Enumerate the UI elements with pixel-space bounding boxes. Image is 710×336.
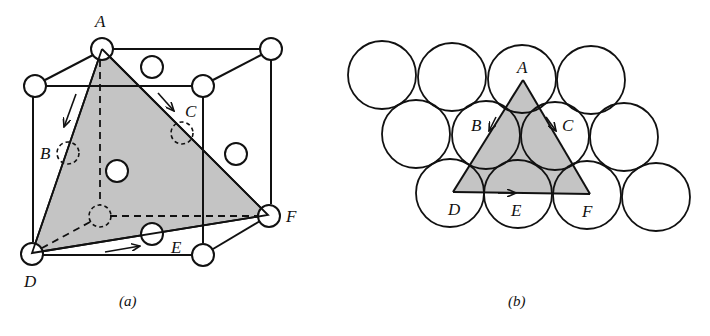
label-b-E: E [510, 201, 522, 220]
edge-bottom-right [213, 221, 260, 249]
edge-top-left [45, 55, 93, 80]
label-a-A: A [94, 12, 106, 31]
label-b-B: B [471, 116, 482, 135]
label-a-D: D [23, 272, 37, 291]
caption-a: (a) [119, 293, 137, 310]
atom-top-back-right [260, 38, 282, 60]
atom-top-front-right [192, 75, 214, 97]
sphere-r2-1 [382, 100, 450, 168]
label-b-D: D [447, 200, 461, 219]
atom-face-right [225, 143, 247, 165]
edge-top-right [213, 55, 261, 80]
arrow-to-E-icon [105, 246, 140, 252]
label-a-E: E [170, 238, 182, 257]
arrow-to-B-icon [64, 94, 76, 127]
sphere-r1-2 [418, 43, 486, 111]
label-b-A: A [516, 58, 528, 77]
sphere-r2-4 [590, 103, 658, 171]
atom-face-front [106, 160, 128, 182]
atom-D [21, 243, 43, 265]
atom-face-top [141, 56, 163, 78]
label-b-F: F [581, 202, 593, 221]
label-a-B: B [40, 144, 51, 163]
panel-a-fcc-cube: A B C D E F (a) [21, 12, 297, 310]
sphere-r3-5 [622, 163, 690, 231]
sphere-r1-1 [348, 41, 416, 109]
figure-canvas: A B C D E F (a) A B [0, 0, 710, 336]
atom-top-front-left [24, 75, 46, 97]
label-b-C: C [562, 116, 574, 135]
panel-b-close-packed-layer: A B C D E F (b) [348, 41, 690, 310]
caption-b: (b) [508, 293, 526, 310]
atom-bottom-front-right [192, 244, 214, 266]
label-a-C: C [185, 102, 197, 121]
label-a-F: F [285, 207, 297, 226]
